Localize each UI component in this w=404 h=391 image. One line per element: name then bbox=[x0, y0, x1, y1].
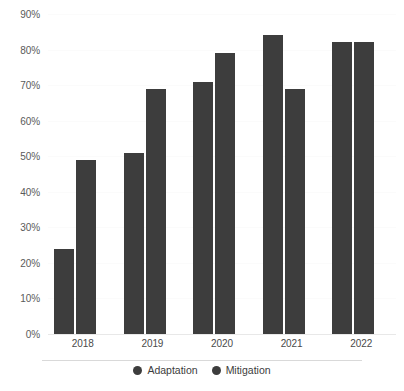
bar-group-2019 bbox=[118, 14, 188, 334]
bar-adaptation-2018[interactable] bbox=[54, 249, 74, 334]
y-axis-tick-label: 20% bbox=[20, 257, 40, 268]
bar-adaptation-2020[interactable] bbox=[193, 82, 213, 334]
legend-item-adaptation[interactable]: Adaptation bbox=[133, 364, 197, 376]
y-axis-tick-label: 90% bbox=[20, 9, 40, 20]
bar-adaptation-2019[interactable] bbox=[124, 153, 144, 334]
y-axis-tick-label: 40% bbox=[20, 186, 40, 197]
legend-divider bbox=[42, 360, 362, 361]
x-axis-tick-label-2018: 2018 bbox=[56, 338, 110, 349]
bar-group-2021 bbox=[257, 14, 327, 334]
y-axis: 0%10%20%30%40%50%60%70%80%90% bbox=[0, 0, 44, 348]
legend-label: Adaptation bbox=[147, 364, 197, 376]
y-axis-tick-label: 30% bbox=[20, 222, 40, 233]
bar-mitigation-2018[interactable] bbox=[76, 160, 96, 334]
x-axis-tick-label-2020: 2020 bbox=[195, 338, 249, 349]
bar-chart: 0%10%20%30%40%50%60%70%80%90% 2018201920… bbox=[0, 0, 404, 391]
x-axis-tick-label-2021: 2021 bbox=[265, 338, 319, 349]
x-axis: 20182019202020212022 bbox=[48, 336, 396, 354]
bar-group-2018 bbox=[48, 14, 118, 334]
x-axis-tick-label-2019: 2019 bbox=[125, 338, 179, 349]
y-axis-tick-label: 0% bbox=[26, 329, 40, 340]
x-axis-tick-label-2022: 2022 bbox=[334, 338, 388, 349]
y-axis-tick-label: 50% bbox=[20, 151, 40, 162]
bar-adaptation-2022[interactable] bbox=[332, 42, 352, 334]
bar-group-2022 bbox=[326, 14, 396, 334]
axis-baseline bbox=[48, 334, 396, 335]
bar-mitigation-2019[interactable] bbox=[146, 89, 166, 334]
bar-layer bbox=[48, 14, 396, 334]
y-axis-tick-label: 60% bbox=[20, 115, 40, 126]
y-axis-tick-label: 80% bbox=[20, 44, 40, 55]
bar-mitigation-2021[interactable] bbox=[285, 89, 305, 334]
legend-circle-icon bbox=[133, 366, 142, 375]
y-axis-tick-label: 70% bbox=[20, 80, 40, 91]
legend-label: Mitigation bbox=[226, 364, 271, 376]
chart-legend: AdaptationMitigation bbox=[0, 364, 404, 376]
bar-group-2020 bbox=[187, 14, 257, 334]
legend-item-mitigation[interactable]: Mitigation bbox=[212, 364, 271, 376]
bar-mitigation-2022[interactable] bbox=[354, 42, 374, 334]
bar-mitigation-2020[interactable] bbox=[215, 53, 235, 334]
bar-adaptation-2021[interactable] bbox=[263, 35, 283, 334]
y-axis-tick-label: 10% bbox=[20, 293, 40, 304]
legend-circle-icon bbox=[212, 366, 221, 375]
